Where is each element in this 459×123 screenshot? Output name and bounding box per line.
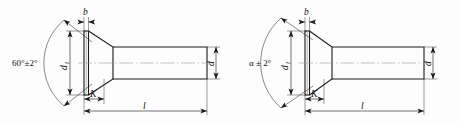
head-thickness-label-left: b <box>83 7 88 17</box>
head-diameter-label-right: d <box>280 65 290 70</box>
head-thickness-label-right: b <box>304 7 309 17</box>
angle-label-left: 60°±2° <box>12 58 38 68</box>
head-height-label-left: K <box>89 89 97 99</box>
shank-diameter-label-right: d <box>423 61 433 66</box>
shank-diameter-label-left: d <box>206 61 216 66</box>
head-height-label-right: K <box>310 89 318 99</box>
figure-right-group: α ± 2° d 1 b K l d <box>249 7 437 115</box>
length-label-left: l <box>143 101 146 111</box>
drawing-sheet: 60°±2° d 1 b K l d <box>0 0 459 123</box>
length-label-right: l <box>361 101 364 111</box>
head-diameter-label-left: d <box>59 65 69 70</box>
head-diameter-sub-right: 1 <box>285 62 291 65</box>
angle-label-right: α ± 2° <box>249 58 272 68</box>
head-diameter-label-left-group: d 1 <box>59 62 70 71</box>
dim-length-right <box>305 79 424 115</box>
figure-left-group: 60°±2° d 1 b K l d <box>12 7 220 115</box>
head-diameter-sub-left: 1 <box>64 62 70 65</box>
head-diameter-label-right-group: d 1 <box>280 62 291 71</box>
technical-drawing-canvas: 60°±2° d 1 b K l d <box>0 0 459 123</box>
